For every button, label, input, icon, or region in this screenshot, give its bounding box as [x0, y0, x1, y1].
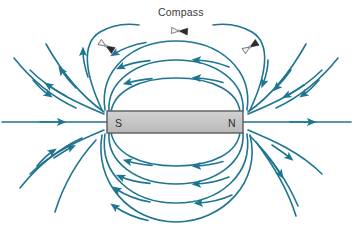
field-line-upper-1 — [111, 78, 240, 112]
compass-pivot — [178, 30, 180, 32]
field-line-outer-upper-left-1-arrow — [48, 85, 66, 96]
field-line-outer-upper-left-3-arrow — [33, 80, 49, 95]
field-line-upper-4-left — [87, 24, 139, 110]
magnet-north-pole-label: N — [228, 117, 236, 129]
field-lines-upper-outer — [14, 44, 338, 114]
field-line-upper-4-right — [213, 24, 265, 110]
compass-top-center[interactable] — [171, 27, 187, 35]
field-line-lower-3-arrow-l — [116, 189, 150, 202]
field-lines-upper — [83, 24, 268, 112]
field-line-outer-lower-left-1 — [30, 130, 104, 174]
bar-magnet: S N — [107, 111, 243, 133]
field-line-outer-upper-right-2-arrow — [276, 70, 291, 88]
compass-upper-left[interactable] — [98, 39, 115, 53]
compass-caption-label: Compass — [158, 6, 204, 18]
field-line-lower-1 — [111, 132, 240, 166]
compass-upper-right[interactable] — [242, 40, 259, 54]
magnet-south-pole-label: S — [115, 117, 122, 129]
field-line-outer-lower-right-3 — [256, 142, 296, 216]
field-line-outer-lower-left-2-arrow — [37, 151, 53, 166]
field-line-outer-lower-right-1-arrow — [272, 145, 290, 158]
field-line-outer-lower-right-1 — [248, 130, 322, 174]
magnet-rect — [107, 111, 243, 133]
field-line-outer-upper-left-2-arrow — [61, 70, 76, 88]
field-line-outer-lower-left-2 — [20, 138, 82, 188]
magnetic-field-diagram: S N — [0, 0, 353, 234]
field-line-lower-2 — [109, 133, 243, 184]
figure-canvas: S N Compass — [0, 0, 353, 234]
compass-needle-dark-half — [104, 43, 115, 53]
field-line-outer-upper-right-1-arrow — [286, 85, 304, 96]
field-lines-lower — [101, 132, 252, 222]
field-line-upper-2 — [109, 60, 243, 111]
field-line-outer-upper-right-3-arrow — [303, 80, 319, 95]
